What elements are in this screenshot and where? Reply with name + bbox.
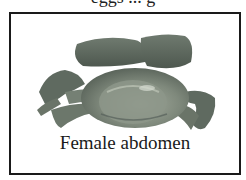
crab-image — [35, 32, 217, 134]
figure-panel: Female abdomen — [9, 12, 241, 175]
figure-caption: Female abdomen — [11, 132, 239, 154]
cutoff-heading-text: eggs ... g — [0, 0, 246, 8]
